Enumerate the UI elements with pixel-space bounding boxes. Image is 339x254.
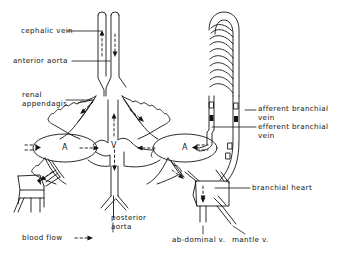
leader-lines: [66, 31, 256, 234]
left-atrium-letter: A: [62, 143, 67, 152]
label-posterior-aorta-line2: aorta: [111, 222, 132, 232]
diagram-page: cephalic vein anterior aorta renal appen…: [0, 0, 339, 254]
abdominal-vein-arrowhead: [201, 198, 206, 204]
mantle-vein-vessel: [217, 206, 236, 224]
efferent-branchial-vein-vessel: [197, 96, 214, 151]
flow-arrow-renal-upper-right: [130, 110, 140, 118]
right-atrium-letter: A: [182, 143, 187, 152]
leader-renal-appendages-2: [78, 100, 92, 103]
abdominal-vein-vessel: [200, 206, 206, 222]
flow-arrow-posterior-aorta-head: [112, 166, 117, 172]
flow-arrow-left-atrium-to-ventricle-head: [94, 146, 100, 151]
ventricle-letter: V: [111, 141, 116, 150]
flow-arrow-right-atrium-to-ventricle-head: [137, 146, 143, 151]
flow-arrow-left-inflow: [25, 145, 36, 150]
renal-appendage-upper-right: [122, 96, 170, 139]
posterior-aorta-vessel: [101, 166, 128, 218]
label-anterior-aorta: anterior aorta: [13, 56, 68, 66]
label-abdominal-vein: ab-dominal v.: [172, 235, 225, 245]
legend-blood-flow-label: blood flow: [22, 233, 63, 243]
ventricle-outline: [93, 100, 154, 165]
label-branchial-heart: branchial heart: [252, 183, 312, 193]
gill-lamellae: [210, 24, 233, 93]
gill-outline: [209, 12, 239, 96]
flow-arrow-right-inflow-head: [192, 145, 198, 151]
flow-arrow-to-anterior-aorta-head: [112, 113, 117, 119]
flow-arrow-anterior-aorta-head: [113, 52, 118, 58]
legend-flow-arrow-head: [88, 236, 94, 241]
label-mantle-vein: mantle v.: [232, 235, 269, 245]
label-efferent-branchial-vein-line2: vein: [258, 131, 275, 141]
flow-arrow-left-inflow-head: [36, 145, 42, 151]
branchial-heart-left-arrowhead: [37, 178, 41, 186]
leader-mantle-vein: [233, 226, 245, 234]
label-cephalic-vein: cephalic vein: [21, 26, 73, 36]
label-renal-appendages-line2: appendagis: [22, 99, 67, 109]
flow-arrow-renal-upper-left: [84, 102, 93, 110]
